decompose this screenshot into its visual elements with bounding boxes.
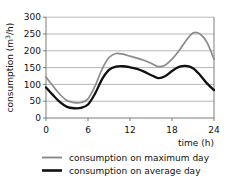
y-tick-label-250: 250 <box>24 29 41 39</box>
legend-label-maximum-day: consumption on maximum day <box>69 153 210 163</box>
x-tick-label-24: 24 <box>208 125 220 135</box>
x-tick-labels: 0 6 12 18 24 <box>43 125 220 135</box>
x-axis-title: time (h) <box>178 138 214 148</box>
x-tick-label-6: 6 <box>85 125 91 135</box>
legend: consumption on maximum day consumption o… <box>42 153 210 176</box>
y-tick-label-300: 300 <box>24 12 41 22</box>
x-tick-label-12: 12 <box>124 125 135 135</box>
y-tick-label-50: 50 <box>30 96 42 106</box>
svg-text:consumption (m3/h): consumption (m3/h) <box>4 23 15 113</box>
y-axis-title-main: consumption (m <box>5 39 15 112</box>
plot-series <box>46 32 214 108</box>
y-tick-label-0: 0 <box>35 113 41 123</box>
y-tick-label-150: 150 <box>24 63 41 73</box>
x-tick-label-18: 18 <box>166 125 178 135</box>
y-tick-label-200: 200 <box>24 46 41 56</box>
legend-label-average-day: consumption on average day <box>69 166 201 176</box>
y-tick-labels: 300 250 200 150 100 50 0 <box>24 12 41 123</box>
gridlines <box>46 17 214 101</box>
consumption-line-chart: 300 250 200 150 100 50 0 0 6 12 18 24 co… <box>0 0 239 181</box>
y-tick-label-100: 100 <box>24 80 41 90</box>
x-tick-label-0: 0 <box>43 125 49 135</box>
y-axis-title-tail: /h) <box>5 23 15 35</box>
y-axis-title: consumption (m3/h) <box>4 23 15 113</box>
chart-figure: 300 250 200 150 100 50 0 0 6 12 18 24 co… <box>0 0 239 181</box>
